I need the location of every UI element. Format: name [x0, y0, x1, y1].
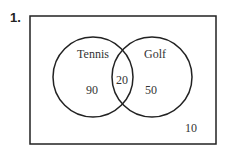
golf-only-value: 50 — [145, 83, 157, 97]
golf-label: Golf — [144, 47, 166, 61]
outside-value: 10 — [185, 121, 197, 135]
tennis-label: Tennis — [77, 47, 109, 61]
tennis-only-value: 90 — [86, 83, 98, 97]
venn-diagram: Tennis Golf 90 20 50 10 — [0, 0, 225, 149]
intersection-value: 20 — [116, 73, 128, 87]
